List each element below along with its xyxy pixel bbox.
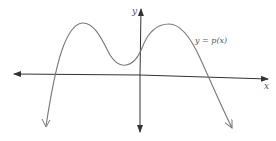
x-axis-positive xyxy=(140,75,268,79)
x-axis-label: x xyxy=(264,81,269,91)
x-axis xyxy=(14,74,140,75)
graph-canvas: y x y = p(x) xyxy=(0,0,276,141)
y-axis-label: y xyxy=(131,6,138,16)
curve-label: y = p(x) xyxy=(194,36,227,45)
y-axis xyxy=(140,9,141,75)
